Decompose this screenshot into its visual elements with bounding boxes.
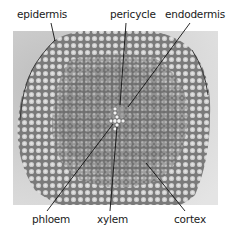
label-cortex: cortex xyxy=(174,213,206,225)
label-xylem: xylem xyxy=(97,213,128,225)
label-phloem: phloem xyxy=(32,213,70,225)
label-endodermis: endodermis xyxy=(165,8,225,20)
micrograph-svg xyxy=(0,0,229,233)
label-pericycle: pericycle xyxy=(110,8,156,20)
root-cross-section-diagram: epidermis pericycle endodermis phloem xy… xyxy=(0,0,229,233)
label-epidermis: epidermis xyxy=(17,8,67,20)
